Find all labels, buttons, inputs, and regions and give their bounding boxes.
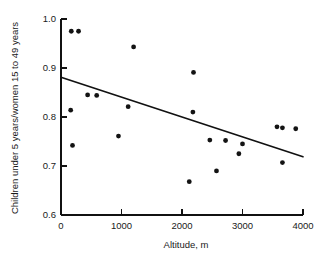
data-point (116, 134, 121, 139)
y-tick-label: 0.7 (43, 160, 56, 171)
x-tick-label: 2000 (171, 220, 192, 231)
data-point (85, 93, 90, 98)
y-tick-label: 1.0 (43, 13, 56, 24)
y-axis-title: Children under 5 years/women 15 to 49 ye… (9, 22, 20, 214)
data-point (126, 104, 131, 109)
data-point (131, 45, 136, 50)
x-tick-label: 0 (58, 220, 63, 231)
data-point-series (68, 29, 298, 184)
data-point (240, 142, 245, 147)
trend-line-group (61, 77, 303, 156)
x-axis-title: Altitude, m (164, 239, 209, 250)
y-axis-ticks: 0.60.70.80.91.0 (43, 13, 67, 220)
data-point (68, 108, 73, 113)
data-point (214, 169, 219, 174)
data-point (187, 179, 192, 184)
data-point (293, 126, 298, 131)
data-point (191, 70, 196, 75)
data-point (223, 138, 228, 143)
x-tick-label: 4000 (292, 220, 313, 231)
x-axis-ticks: 01000200030004000 (58, 209, 313, 231)
data-point (207, 138, 212, 143)
data-point (76, 29, 81, 34)
x-tick-label: 3000 (232, 220, 253, 231)
data-point (190, 110, 195, 115)
x-tick-label: 1000 (111, 220, 132, 231)
data-point (70, 143, 75, 148)
scatter-plot-figure: 0.60.70.80.91.0 01000200030004000 Altitu… (0, 0, 332, 265)
y-tick-label: 0.9 (43, 62, 56, 73)
y-tick-label: 0.8 (43, 111, 56, 122)
data-point (280, 125, 285, 130)
fitted-regression-line (61, 77, 303, 156)
y-tick-label: 0.6 (43, 209, 56, 220)
data-point (94, 93, 99, 98)
chart-canvas: 0.60.70.80.91.0 01000200030004000 Altitu… (0, 0, 332, 265)
data-point (236, 151, 241, 156)
data-point (280, 160, 285, 165)
data-point (69, 29, 74, 34)
data-point (275, 124, 280, 129)
